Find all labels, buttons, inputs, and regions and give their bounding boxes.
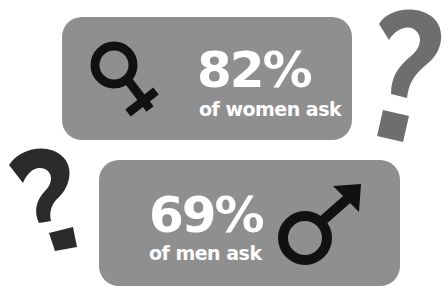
women-stat-card: 82% of women ask (62, 17, 352, 140)
women-percent: 82% (197, 45, 311, 95)
men-stat-card: 69% of men ask (99, 160, 400, 286)
female-symbol-icon (90, 37, 160, 127)
male-symbol-icon (269, 182, 369, 272)
question-mark-icon (365, 2, 445, 142)
men-percent: 69% (149, 190, 263, 240)
women-label: of women ask (199, 100, 341, 119)
question-mark-icon (5, 143, 85, 253)
men-label: of men ask (149, 244, 262, 263)
